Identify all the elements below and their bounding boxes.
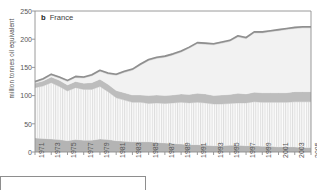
x-tick-2001: 2001 (282, 142, 289, 158)
x-tick-1993: 1993 (217, 142, 224, 158)
x-tick-2003: 2003 (298, 142, 305, 158)
x-tick-1985: 1985 (152, 142, 159, 158)
x-tick-1983: 1983 (135, 142, 142, 158)
x-tick-1989: 1989 (184, 142, 191, 158)
panel-letter: b (41, 13, 46, 22)
x-tick-1991: 1991 (200, 142, 207, 158)
panel-title: France (50, 13, 74, 22)
x-tick-1987: 1987 (168, 142, 175, 158)
x-tick-1977: 1977 (87, 142, 94, 158)
area-chart (0, 0, 317, 190)
x-tick-1971: 1971 (38, 142, 45, 158)
x-tick-1975: 1975 (70, 142, 77, 158)
x-tick-1979: 1979 (103, 142, 110, 158)
x-tick-2005: 2005 (314, 142, 317, 158)
panel-label: bFrance (41, 13, 73, 22)
x-tick-1999: 1999 (265, 142, 272, 158)
x-tick-1995: 1995 (233, 142, 240, 158)
x-tick-1981: 1981 (119, 142, 126, 158)
caption-box (0, 176, 146, 190)
x-tick-1997: 1997 (249, 142, 256, 158)
x-tick-1973: 1973 (54, 142, 61, 158)
